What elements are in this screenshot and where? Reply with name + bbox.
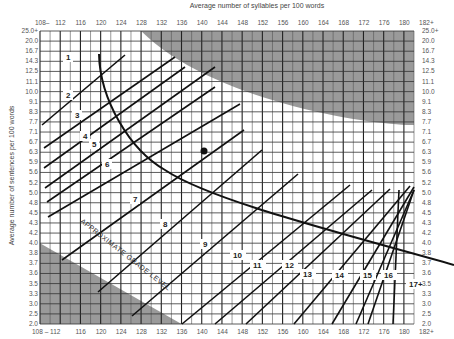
- grade-line-10: [182, 185, 350, 324]
- svg-text:164: 164: [318, 328, 329, 335]
- svg-text:2.5: 2.5: [422, 310, 431, 317]
- svg-text:148: 148: [237, 328, 248, 335]
- plotted-point: [201, 148, 208, 155]
- grade-label: 2: [66, 91, 71, 100]
- grade-line-6: [48, 104, 240, 217]
- svg-text:3.3: 3.3: [422, 290, 431, 297]
- svg-text:5.2: 5.2: [29, 179, 38, 186]
- svg-text:4.8: 4.8: [422, 199, 431, 206]
- svg-text:128: 128: [136, 19, 147, 26]
- grade-label: 11: [253, 261, 262, 270]
- svg-text:7.7: 7.7: [29, 118, 38, 125]
- svg-text:14.3: 14.3: [422, 57, 435, 64]
- grade-line-8: [98, 150, 262, 292]
- svg-text:6.3: 6.3: [29, 148, 38, 155]
- svg-text:168: 168: [338, 328, 349, 335]
- grade-label: 6: [105, 160, 110, 169]
- svg-text:12.5: 12.5: [422, 67, 435, 74]
- grade-label: 3: [75, 111, 80, 120]
- svg-text:3.8: 3.8: [422, 249, 431, 256]
- grade-label: 16: [384, 271, 393, 280]
- grade-label: 5: [92, 140, 97, 149]
- svg-text:148: 148: [237, 19, 248, 26]
- svg-text:12.5: 12.5: [25, 67, 38, 74]
- grade-label: 17+: [409, 280, 423, 289]
- svg-text:7.1: 7.1: [29, 128, 38, 135]
- svg-text:128: 128: [136, 328, 147, 335]
- svg-text:2.0: 2.0: [422, 320, 431, 327]
- svg-text:156: 156: [278, 328, 289, 335]
- svg-text:144: 144: [217, 328, 228, 335]
- svg-text:8.3: 8.3: [422, 108, 431, 115]
- svg-text:5.0: 5.0: [422, 189, 431, 196]
- svg-text:3.0: 3.0: [422, 300, 431, 307]
- svg-text:10.0: 10.0: [25, 88, 38, 95]
- svg-text:7.1: 7.1: [422, 128, 431, 135]
- svg-text:160: 160: [298, 328, 309, 335]
- svg-text:172: 172: [358, 19, 369, 26]
- svg-text:3.7: 3.7: [422, 259, 431, 266]
- svg-text:144: 144: [217, 19, 228, 26]
- fry-graph: 1234567891011121314151617+APPROXIMATE GR…: [0, 0, 454, 339]
- grade-label: 8: [163, 220, 168, 229]
- svg-text:182+: 182+: [419, 328, 434, 335]
- svg-text:9.1: 9.1: [29, 98, 38, 105]
- svg-text:11.1: 11.1: [422, 78, 435, 85]
- svg-text:3.8: 3.8: [29, 249, 38, 256]
- svg-text:172: 172: [358, 328, 369, 335]
- grade-line-1: [42, 55, 125, 125]
- svg-text:6.7: 6.7: [29, 138, 38, 145]
- svg-text:9.1: 9.1: [422, 98, 431, 105]
- grade-label: 1: [66, 53, 71, 62]
- svg-text:182+: 182+: [419, 19, 434, 26]
- svg-text:25.0+: 25.0+: [22, 27, 39, 34]
- grade-label: 7: [133, 195, 138, 204]
- svg-text:4.2: 4.2: [29, 229, 38, 236]
- svg-text:132: 132: [156, 328, 167, 335]
- grade-label: 10: [233, 251, 242, 260]
- grade-label: 4: [83, 132, 88, 141]
- svg-text:116: 116: [75, 19, 86, 26]
- svg-text:132: 132: [156, 19, 167, 26]
- svg-text:16.7: 16.7: [422, 47, 435, 54]
- svg-text:5.9: 5.9: [422, 158, 431, 165]
- svg-text:10.0: 10.0: [422, 88, 435, 95]
- svg-text:5.0: 5.0: [29, 189, 38, 196]
- svg-text:4.5: 4.5: [422, 209, 431, 216]
- svg-text:140: 140: [197, 328, 208, 335]
- svg-text:5.2: 5.2: [422, 179, 431, 186]
- svg-text:116: 116: [75, 328, 86, 335]
- svg-text:168: 168: [338, 19, 349, 26]
- svg-text:112: 112: [55, 19, 66, 26]
- svg-text:124: 124: [116, 19, 127, 26]
- svg-text:156: 156: [278, 19, 289, 26]
- svg-text:136: 136: [177, 19, 188, 26]
- svg-text:108–: 108–: [35, 19, 50, 26]
- svg-text:25.0+: 25.0+: [422, 27, 439, 34]
- svg-text:4.0: 4.0: [422, 239, 431, 246]
- svg-text:3.0: 3.0: [29, 300, 38, 307]
- svg-text:3.5: 3.5: [422, 280, 431, 287]
- svg-text:176: 176: [379, 328, 390, 335]
- svg-text:2.5: 2.5: [29, 310, 38, 317]
- grade-line-9: [132, 174, 298, 316]
- svg-text:176: 176: [379, 19, 390, 26]
- grade-line-3: [44, 67, 185, 168]
- svg-text:108 – 112: 108 – 112: [32, 328, 61, 335]
- svg-text:5.6: 5.6: [29, 168, 38, 175]
- svg-text:7.7: 7.7: [422, 118, 431, 125]
- svg-text:2.0: 2.0: [29, 320, 38, 327]
- svg-text:136: 136: [177, 328, 188, 335]
- svg-text:152: 152: [257, 19, 268, 26]
- svg-text:140: 140: [197, 19, 208, 26]
- svg-text:3.7: 3.7: [29, 259, 38, 266]
- svg-text:11.1: 11.1: [26, 78, 39, 85]
- svg-text:180: 180: [399, 328, 410, 335]
- svg-text:3.6: 3.6: [422, 269, 431, 276]
- svg-text:20.0: 20.0: [422, 37, 435, 44]
- svg-text:5.6: 5.6: [422, 168, 431, 175]
- svg-text:160: 160: [298, 19, 309, 26]
- svg-text:3.3: 3.3: [29, 290, 38, 297]
- svg-text:14.3: 14.3: [25, 57, 38, 64]
- grade-label: 13: [303, 270, 312, 279]
